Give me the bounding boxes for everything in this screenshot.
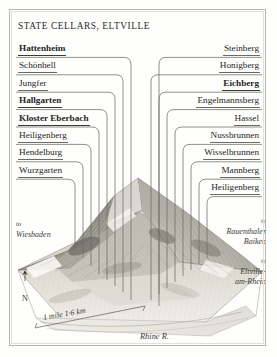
direction-place-line1: Eltville-: [240, 267, 266, 276]
direction-to-prefix: to: [212, 216, 266, 227]
vineyard-label[interactable]: Mannberg: [148, 162, 260, 179]
vineyard-name: Hallgarten: [18, 94, 62, 108]
north-arrow: N: [16, 268, 34, 292]
direction-place: Wiesbaden: [16, 230, 51, 239]
page-title: STATE CELLARS, ELTVILLE: [18, 21, 150, 31]
vineyard-label[interactable]: Heiligenberg: [148, 179, 260, 196]
vineyard-list-right: Steinberg Honigberg Eichberg Engelmannsb…: [148, 40, 260, 197]
vineyard-name: Jungfer: [18, 77, 48, 91]
direction-to-prefix: to: [16, 219, 51, 230]
vineyard-name: Engelmannsberg: [196, 94, 260, 108]
vineyard-name: Mannberg: [220, 164, 260, 178]
vineyard-label[interactable]: Hallgarten: [18, 92, 130, 109]
vineyard-label[interactable]: Steinberg: [148, 40, 260, 57]
vineyard-name: Wisselbrunnen: [203, 146, 260, 160]
vineyard-name: Heiligenberg: [18, 129, 68, 143]
vineyard-list-left: Hattenheim Schönhell Jungfer Hallgarten …: [18, 40, 130, 179]
vineyard-name: Heiligenberg: [210, 181, 260, 195]
vineyard-label[interactable]: Engelmannsberg: [148, 92, 260, 109]
direction-to-rauenthaler-baiken: to Rauenthaler Baiken: [212, 216, 266, 248]
vineyard-name: Wurzgarten: [18, 164, 63, 178]
direction-to-wiesbaden: to Wiesbaden: [16, 219, 51, 240]
vineyard-name: Honigberg: [219, 59, 260, 73]
vineyard-name: Hassel: [234, 112, 261, 126]
vineyard-label[interactable]: Wisselbrunnen: [148, 144, 260, 161]
vineyard-name: Hattenheim: [18, 42, 66, 56]
vineyard-label[interactable]: Schönhell: [18, 57, 130, 74]
direction-place-line1: Rauenthaler: [226, 227, 266, 236]
direction-to-prefix: to: [206, 256, 266, 267]
vineyard-label[interactable]: Jungfer: [18, 75, 130, 92]
vineyard-label[interactable]: Hendelburg: [18, 144, 130, 161]
vineyard-name: Steinberg: [223, 42, 260, 56]
vineyard-label[interactable]: Kloster Eberbach: [18, 110, 130, 127]
direction-place-line2: Baiken: [244, 237, 266, 246]
map-page: STATE CELLARS, ELTVILLE Hattenheim Schön…: [0, 0, 277, 357]
vineyard-label[interactable]: Nussbrunnen: [148, 127, 260, 144]
vineyard-label[interactable]: Hattenheim: [18, 40, 130, 57]
north-arrow-label: N: [16, 295, 34, 303]
direction-place-line2: am-Rhein: [235, 277, 266, 286]
vineyard-label[interactable]: Honigberg: [148, 57, 260, 74]
direction-to-eltville-am-rhein: to Eltville- am-Rhein: [206, 256, 266, 288]
vineyard-label[interactable]: Heiligenberg: [18, 127, 130, 144]
vineyard-label[interactable]: Eichberg: [148, 75, 260, 92]
vineyard-label[interactable]: Wurzgarten: [18, 162, 130, 179]
vineyard-label[interactable]: Hassel: [148, 110, 260, 127]
vineyard-name: Kloster Eberbach: [18, 112, 90, 126]
vineyard-name: Eichberg: [222, 77, 260, 91]
vineyard-name: Nussbrunnen: [210, 129, 261, 143]
north-arrow-icon: [16, 270, 34, 282]
vineyard-name: Schönhell: [18, 59, 57, 73]
vineyard-name: Hendelburg: [18, 146, 63, 160]
